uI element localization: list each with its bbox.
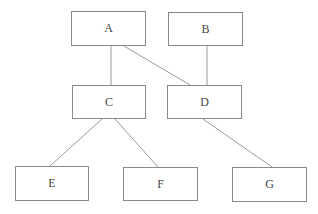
node-e-label: E bbox=[48, 176, 55, 191]
node-g: G bbox=[232, 167, 307, 202]
node-b: B bbox=[168, 12, 243, 46]
node-d: D bbox=[167, 85, 242, 119]
node-c: C bbox=[72, 85, 146, 119]
edge-c-e bbox=[50, 119, 102, 166]
node-f-label: F bbox=[157, 177, 164, 192]
node-c-label: C bbox=[105, 95, 113, 110]
edge-a-d bbox=[124, 46, 190, 85]
node-g-label: G bbox=[265, 177, 274, 192]
edge-c-f bbox=[115, 119, 158, 167]
node-a: A bbox=[71, 11, 146, 46]
node-b-label: B bbox=[201, 22, 209, 37]
node-f: F bbox=[123, 167, 198, 201]
node-e: E bbox=[15, 166, 89, 201]
node-d-label: D bbox=[200, 95, 209, 110]
edge-d-g bbox=[203, 119, 272, 167]
node-a-label: A bbox=[104, 21, 113, 36]
